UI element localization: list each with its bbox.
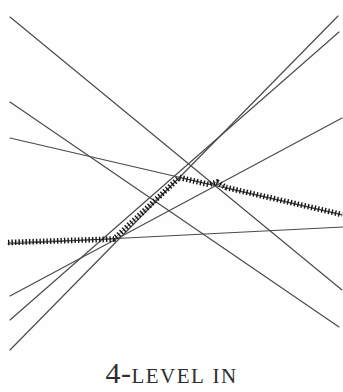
line-steep-rise-b: [10, 32, 339, 320]
figure-caption: 4-LEVELIN: [0, 356, 343, 390]
line-shallow-rise: [10, 118, 342, 296]
figure-4-level: 4-LEVELIN: [0, 0, 343, 392]
caption-number: 4-: [105, 356, 131, 389]
caption-word-in: IN: [212, 364, 237, 388]
line-shallow-desc: [10, 138, 342, 215]
k-level-group: [8, 178, 342, 243]
4-level-marked-path-core: [8, 178, 342, 243]
line-steep-desc-a: [10, 17, 342, 290]
caption-word-level: LEVEL: [131, 364, 205, 388]
4-level-marked-path: [8, 178, 342, 243]
arrangement-canvas: [0, 0, 343, 392]
line-mid-desc: [10, 102, 339, 327]
